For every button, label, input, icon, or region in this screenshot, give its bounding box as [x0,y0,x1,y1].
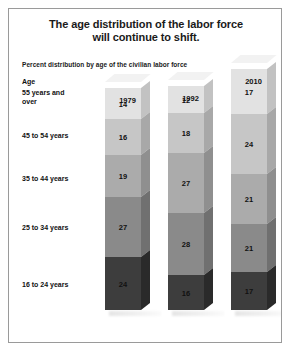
plot-area: 14 16 19 27 24 1979 [9,9,282,343]
bar-shadow-1992 [172,311,224,316]
segment-side-face [141,190,150,257]
segment-1992-16-24[interactable]: 16 [168,275,204,310]
x-axis-label-1992: 1992 [168,94,213,103]
bar-group-2010: 17 24 21 21 17 2010 [231,69,267,310]
chart-figure: The age distribution of the labor force … [8,8,282,343]
segment-side-face [267,107,276,174]
bar-shadow-2010 [235,311,282,316]
segment-value: 24 [105,279,141,288]
segment-1992-35-44[interactable]: 27 [168,153,204,213]
x-axis-label-1979: 1979 [105,96,150,105]
segment-side-face [267,62,276,114]
bar-top-face-2010 [231,55,277,63]
bar-top-face-1979 [105,74,151,82]
segment-value: 21 [231,195,267,204]
segment-value: 24 [231,140,267,149]
x-axis-label-2010: 2010 [231,77,276,86]
segment-side-face [267,217,276,272]
bar-top-face-1992 [168,72,214,80]
segment-1979-16-24[interactable]: 24 [105,257,141,310]
bar-group-1992: 12 18 27 28 16 1992 [168,86,204,310]
bar-group-1979: 14 16 19 27 24 1979 [105,88,141,310]
segment-side-face [204,268,213,310]
segment-side-face [141,250,150,310]
segment-value: 17 [231,87,267,96]
segment-1979-45-54[interactable]: 16 [105,119,141,155]
segment-1992-45-54[interactable]: 18 [168,113,204,153]
segment-2010-16-24[interactable]: 17 [231,272,267,310]
segment-2010-55-and-over[interactable]: 17 [231,69,267,114]
segment-value: 16 [105,133,141,142]
segment-1979-35-44[interactable]: 19 [105,155,141,197]
segment-1992-25-34[interactable]: 28 [168,213,204,275]
segment-2010-35-44[interactable]: 21 [231,174,267,224]
segment-2010-25-34[interactable]: 21 [231,224,267,272]
segment-value: 21 [231,244,267,253]
segment-value: 17 [231,287,267,296]
segment-value: 19 [105,172,141,181]
segment-2010-45-54[interactable]: 24 [231,114,267,174]
segment-side-face [204,206,213,275]
segment-value: 27 [168,179,204,188]
segment-side-face [204,146,213,213]
segment-1979-25-34[interactable]: 27 [105,197,141,257]
bar-top-2010 [231,62,267,69]
segment-side-face [267,265,276,310]
bar-top-1992 [168,79,204,86]
bar-shadow-1979 [109,311,161,316]
segment-value: 18 [168,129,204,138]
segment-value: 27 [105,223,141,232]
stacked-bar-1979[interactable]: 14 16 19 27 24 [105,88,141,310]
stacked-bar-1992[interactable]: 12 18 27 28 16 [168,86,204,310]
stacked-bar-2010[interactable]: 17 24 21 21 17 [231,69,267,310]
bar-top-1979 [105,81,141,88]
segment-value: 16 [168,288,204,297]
segment-value: 28 [168,240,204,249]
segment-side-face [267,167,276,224]
